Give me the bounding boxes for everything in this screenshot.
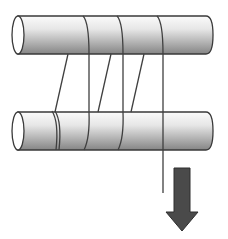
bottom-cylinder xyxy=(12,112,213,150)
rope-diagonal-3 xyxy=(131,54,144,112)
top-cylinder xyxy=(12,16,213,54)
pulley-diagram xyxy=(0,0,228,239)
pull-arrow-icon xyxy=(166,168,198,231)
rope-diagonal-2 xyxy=(98,54,111,112)
top-cylinder-end-ellipse xyxy=(12,16,24,54)
bottom-cylinder-end-ellipse xyxy=(12,112,24,150)
diagram-stage xyxy=(0,0,228,239)
rope-diagonal-1 xyxy=(55,54,68,112)
